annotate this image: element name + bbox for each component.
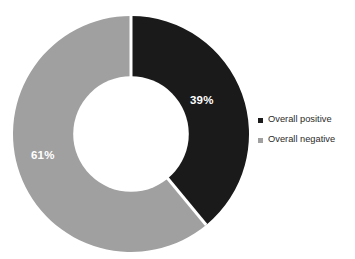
legend-swatch-icon-overall-negative [258,138,263,143]
legend-swatch-icon-overall-positive [258,118,263,123]
chart-legend: Overall positive Overall negative [258,110,353,150]
slice-value-label-overall-positive: 39% [190,95,214,107]
legend-item-overall-negative[interactable]: Overall negative [258,130,353,150]
slice-value-label-overall-negative: 61% [31,150,55,162]
legend-item-overall-positive[interactable]: Overall positive [258,110,353,130]
donut-chart-figure: 39% 61% Overall positive Overall negativ… [0,0,355,259]
donut-chart-graphic [13,16,249,252]
legend-label-overall-positive: Overall positive [268,115,332,124]
donut-svg [13,16,249,252]
donut-center-hole [73,76,189,192]
legend-label-overall-negative: Overall negative [268,135,335,144]
